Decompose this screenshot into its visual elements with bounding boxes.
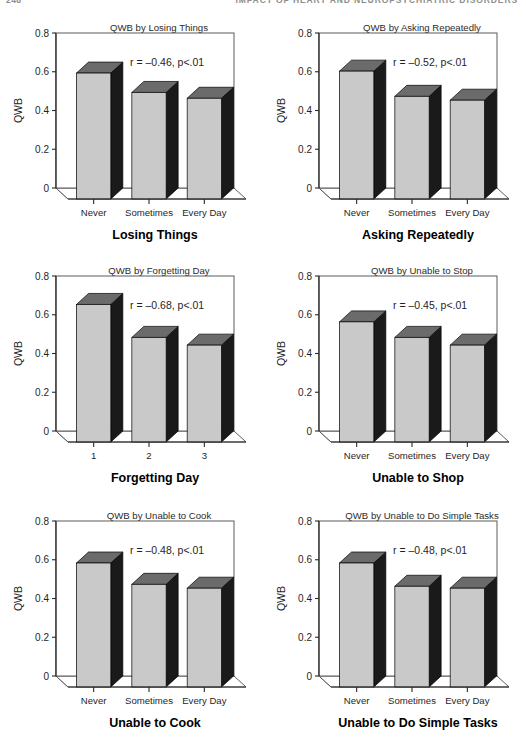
- y-axis-label: QWB: [12, 98, 24, 123]
- x-tick-label: Never: [81, 695, 107, 706]
- y-tick-label: 0: [306, 671, 312, 682]
- y-tick-label: 0.2: [35, 632, 49, 643]
- chart-unable-to-do-simple-tasks: QWB by Unable to Do Simple Tasks00.20.40…: [263, 499, 526, 742]
- y-tick-label: 0.4: [35, 105, 49, 116]
- y-axis-label: QWB: [275, 341, 287, 366]
- chart-title: QWB by Unable to Cook: [107, 510, 212, 521]
- chart-unable-to-cook: QWB by Unable to Cook00.20.40.60.8QWBNev…: [0, 499, 263, 742]
- chart-title: QWB by Unable to Stop: [371, 265, 473, 276]
- y-tick-label: 0.8: [35, 28, 49, 39]
- y-tick-label: 0.4: [298, 105, 312, 116]
- bar: [450, 334, 496, 442]
- x-tick-label: Every Day: [445, 207, 489, 218]
- x-axis: [68, 687, 246, 692]
- x-axis: [331, 199, 509, 204]
- chart-panel-unable-to-cook: QWB by Unable to Cook00.20.40.60.8QWBNev…: [0, 499, 263, 742]
- running-head: 248 IMPACT OF HEART AND NEUROPSYCHIATRIC…: [0, 0, 526, 11]
- chart-losing-things: QWB by Losing Things00.20.40.60.8QWBNeve…: [0, 11, 263, 254]
- y-axis: 00.20.40.60.8: [35, 516, 56, 682]
- y-tick-label: 0.6: [35, 309, 49, 320]
- x-axis-label: Unable to Cook: [109, 716, 201, 730]
- y-axis: 00.20.40.60.8: [35, 28, 56, 194]
- correlation-annotation: r = –0.45, p<.01: [393, 299, 467, 311]
- y-tick-label: 0.6: [35, 554, 49, 565]
- y-tick-label: 0.2: [35, 144, 49, 155]
- chart-title: QWB by Losing Things: [110, 22, 208, 33]
- x-tick-label: 1: [91, 450, 96, 461]
- correlation-annotation: r = –0.68, p<.01: [130, 299, 204, 311]
- x-axis: [331, 687, 509, 692]
- x-axis: [68, 199, 246, 204]
- chart-title: QWB by Unable to Do Simple Tasks: [345, 510, 499, 521]
- chart-panel-losing-things: QWB by Losing Things00.20.40.60.8QWBNeve…: [0, 11, 263, 254]
- bar: [395, 85, 441, 199]
- chart-panel-asking-repeatedly: QWB by Asking Repeatedly00.20.40.60.8QWB…: [263, 11, 526, 254]
- x-tick-label: Never: [81, 207, 107, 218]
- chart-panel-unable-to-do-simple-tasks: QWB by Unable to Do Simple Tasks00.20.40…: [263, 499, 526, 742]
- bar: [395, 575, 441, 687]
- y-tick-label: 0: [43, 426, 49, 437]
- chart-asking-repeatedly: QWB by Asking Repeatedly00.20.40.60.8QWB…: [263, 11, 526, 254]
- bar: [395, 326, 441, 442]
- y-tick-label: 0.4: [298, 348, 312, 359]
- x-tick-label: Never: [344, 450, 370, 461]
- x-tick-label: 3: [202, 450, 207, 461]
- y-tick-label: 0: [43, 671, 49, 682]
- chart-forgetting-day: QWB by Forgetting Day00.20.40.60.8QWB123…: [0, 254, 263, 497]
- y-tick-label: 0.2: [298, 387, 312, 398]
- y-tick-label: 0.6: [298, 554, 312, 565]
- bar: [132, 573, 178, 687]
- x-tick-label: Sometimes: [125, 207, 173, 218]
- y-tick-label: 0: [306, 183, 312, 194]
- y-tick-label: 0.8: [35, 271, 49, 282]
- chart-unable-to-stop: QWB by Unable to Stop00.20.40.60.8QWBNev…: [263, 254, 526, 497]
- x-axis-label: Unable to Do Simple Tasks: [338, 716, 498, 730]
- y-tick-label: 0.4: [35, 593, 49, 604]
- y-axis: 00.20.40.60.8: [35, 271, 56, 437]
- y-tick-label: 0.8: [298, 271, 312, 282]
- y-tick-label: 0.8: [298, 28, 312, 39]
- figure-grid: QWB by Losing Things00.20.40.60.8QWBNeve…: [0, 11, 526, 742]
- y-tick-label: 0: [43, 183, 49, 194]
- y-axis: 00.20.40.60.8: [298, 271, 319, 437]
- x-tick-label: Sometimes: [388, 207, 436, 218]
- bar: [132, 326, 178, 442]
- x-axis-label: Forgetting Day: [111, 471, 199, 485]
- bar: [187, 334, 233, 442]
- y-axis-label: QWB: [275, 586, 287, 611]
- correlation-annotation: r = –0.48, p<.01: [393, 544, 467, 556]
- bar: [340, 311, 386, 442]
- y-tick-label: 0.8: [298, 516, 312, 527]
- x-tick-label: Every Day: [182, 207, 226, 218]
- page-folio: 248: [6, 0, 21, 5]
- running-head-title: IMPACT OF HEART AND NEUROPSYCHIATRIC DIS…: [235, 0, 518, 5]
- bar: [340, 60, 386, 199]
- y-axis: 00.20.40.60.8: [298, 516, 319, 682]
- y-tick-label: 0.2: [35, 387, 49, 398]
- x-axis-label: Unable to Shop: [372, 471, 464, 485]
- x-axis: [68, 442, 246, 447]
- chart-title: QWB by Asking Repeatedly: [363, 22, 481, 33]
- bar: [187, 87, 233, 199]
- y-tick-label: 0: [306, 426, 312, 437]
- y-tick-label: 0.2: [298, 144, 312, 155]
- y-axis: 00.20.40.60.8: [298, 28, 319, 194]
- chart-title: QWB by Forgetting Day: [108, 265, 210, 276]
- y-tick-label: 0.8: [35, 516, 49, 527]
- bar: [450, 89, 496, 199]
- x-tick-label: Every Day: [445, 450, 489, 461]
- x-tick-label: Sometimes: [388, 695, 436, 706]
- bar: [132, 81, 178, 199]
- y-axis-label: QWB: [275, 98, 287, 123]
- bar: [187, 577, 233, 687]
- y-tick-label: 0.6: [298, 309, 312, 320]
- correlation-annotation: r = –0.52, p<.01: [393, 56, 467, 68]
- y-tick-label: 0.4: [35, 348, 49, 359]
- x-tick-label: Never: [344, 695, 370, 706]
- chart-panel-unable-to-stop: QWB by Unable to Stop00.20.40.60.8QWBNev…: [263, 254, 526, 499]
- bar: [77, 293, 123, 442]
- x-tick-label: Sometimes: [125, 695, 173, 706]
- x-tick-label: Every Day: [445, 695, 489, 706]
- y-tick-label: 0.2: [298, 632, 312, 643]
- x-tick-label: Never: [344, 207, 370, 218]
